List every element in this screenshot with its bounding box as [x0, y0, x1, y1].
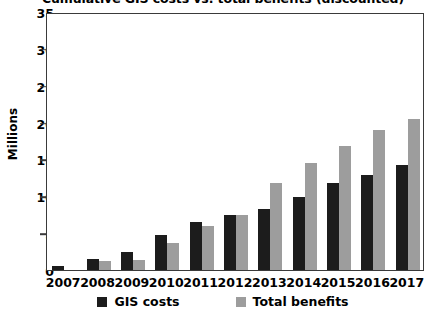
bar-group [288, 14, 322, 270]
bar-group [391, 14, 424, 270]
bar-gis-costs [224, 215, 236, 270]
bar-total-benefits [202, 226, 214, 270]
bar-gis-costs [155, 235, 167, 270]
legend-label: Total benefits [253, 294, 349, 309]
bar-chart: Cumulative GIS costs vs. total benefits … [0, 0, 446, 312]
bar-gis-costs [327, 183, 339, 270]
bar-gis-costs [258, 209, 270, 270]
bar-gis-costs [52, 266, 64, 270]
bar-group [322, 14, 356, 270]
bar-total-benefits [408, 119, 420, 270]
bar-group [47, 14, 81, 270]
bar-group [184, 14, 218, 270]
chart-title: Cumulative GIS costs vs. total benefits … [0, 0, 446, 6]
x-tick-label: 2017 [380, 275, 434, 290]
bar-gis-costs [361, 175, 373, 270]
bar-group [253, 14, 287, 270]
legend-swatch-icon [236, 297, 246, 307]
bar-group [219, 14, 253, 270]
bar-total-benefits [270, 183, 282, 270]
legend-swatch-icon [97, 297, 107, 307]
bar-gis-costs [121, 252, 133, 270]
bar-group [116, 14, 150, 270]
bar-total-benefits [133, 260, 145, 270]
bar-group [150, 14, 184, 270]
bar-total-benefits [305, 163, 317, 270]
chart-legend: GIS costsTotal benefits [0, 294, 446, 309]
bar-gis-costs [396, 165, 408, 270]
bar-gis-costs [87, 259, 99, 270]
legend-label: GIS costs [114, 294, 179, 309]
bar-total-benefits [99, 261, 111, 270]
bar-total-benefits [236, 215, 248, 270]
bar-total-benefits [167, 243, 179, 270]
bar-gis-costs [293, 197, 305, 270]
bar-total-benefits [339, 146, 351, 270]
bar-group [81, 14, 115, 270]
bar-group [356, 14, 390, 270]
legend-item: Total benefits [236, 294, 349, 309]
legend-item: GIS costs [97, 294, 179, 309]
bar-total-benefits [373, 130, 385, 270]
bar-gis-costs [190, 222, 202, 270]
plot-area [46, 13, 424, 271]
